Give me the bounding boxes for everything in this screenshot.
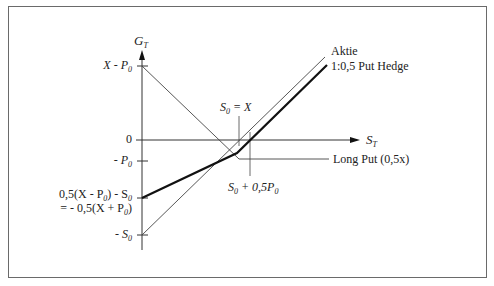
y-axis-label: GT [134, 34, 148, 49]
tick-label-x-minus-p0: X - P0 [103, 59, 132, 73]
tick-label-minus-p0: - P0 [114, 154, 132, 168]
legend-put-hedge: 1:0,5 Put Hedge [331, 60, 409, 73]
put-hedge-line [142, 65, 327, 198]
legend-long-put: Long Put (0,5x) [333, 153, 409, 166]
tick-label-hedge-intercept-1: 0,5(X - P0) - S0 [59, 188, 132, 202]
y-axis-arrow-icon [139, 50, 145, 60]
x-axis-label: ST [366, 133, 377, 148]
tick-label-minus-s0: - S0 [115, 228, 132, 242]
marker-label-s0-plus-half-p0: S0 + 0,5P0 [228, 181, 278, 195]
tick-label-hedge-intercept-2: = - 0,5(X + P0) [60, 202, 132, 216]
marker-label-s0-eq-x: S0 = X [220, 101, 251, 115]
legend-aktie: Aktie [331, 45, 358, 58]
aktie-line [142, 57, 325, 235]
x-axis-arrow-icon [350, 137, 360, 143]
tick-label-zero: 0 [126, 133, 132, 146]
payoff-diagram [0, 0, 494, 286]
